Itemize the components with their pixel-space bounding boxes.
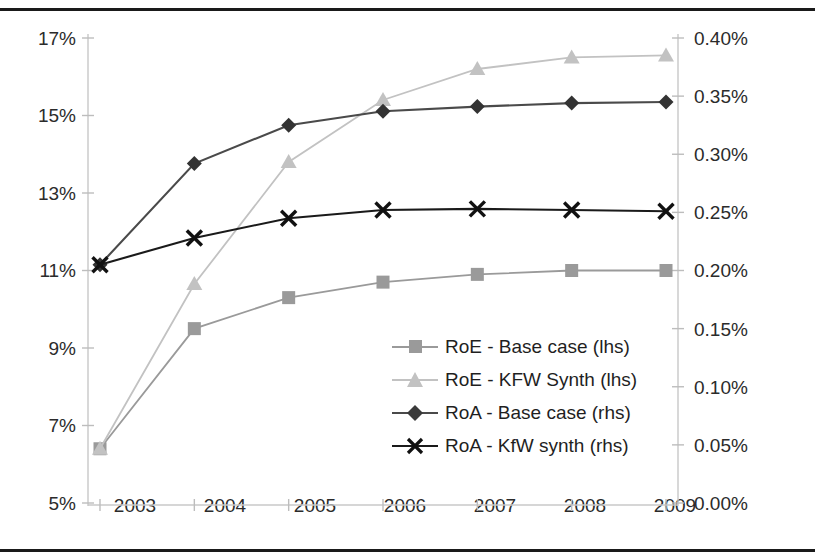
legend-label: RoE - Base case (lhs) <box>445 336 630 358</box>
legend-label: RoA - Base case (rhs) <box>445 402 631 424</box>
legend-label: RoE - KFW Synth (lhs) <box>445 369 637 391</box>
legend-marker-triangle-icon <box>392 370 438 390</box>
series-cross <box>93 201 674 272</box>
legend-label: RoA - KfW synth (rhs) <box>445 435 629 457</box>
legend-item[interactable]: RoE - KFW Synth (lhs) <box>392 363 662 396</box>
legend-item[interactable]: RoA - KfW synth (rhs) <box>392 429 662 462</box>
legend-marker-square-icon <box>392 337 438 357</box>
chart-figure: 17% 15% 13% 11% 9% 7% 5% 0.40% 0.35% 0.3… <box>0 0 815 560</box>
legend-item[interactable]: RoE - Base case (lhs) <box>392 330 662 363</box>
legend-item[interactable]: RoA - Base case (rhs) <box>392 396 662 429</box>
plot-area <box>0 0 815 560</box>
legend-marker-diamond-icon <box>392 403 438 423</box>
series-diamond <box>93 94 674 272</box>
legend-marker-cross-icon <box>392 436 438 456</box>
legend: RoE - Base case (lhs) RoE - KFW Synth (l… <box>392 330 662 462</box>
